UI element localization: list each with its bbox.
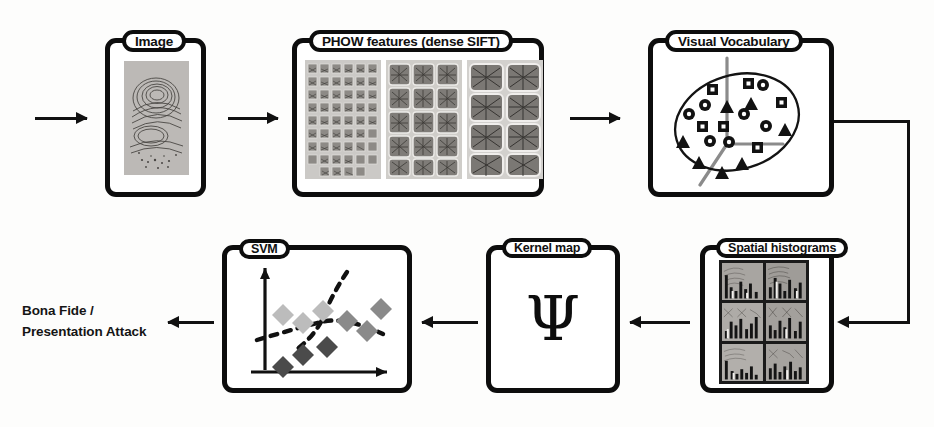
node-vocabulary[interactable]: Visual Vocabulary <box>648 38 834 197</box>
histogram-cell <box>722 263 763 300</box>
output-label: Bona Fide / Presentation Attack <box>22 300 172 342</box>
histogram-cell <box>766 344 807 381</box>
arrow-head-right-icon <box>76 112 88 124</box>
output-line-1: Bona Fide / <box>22 300 172 321</box>
svm-scatter-plot <box>235 258 407 388</box>
histogram-cell <box>722 303 763 340</box>
node-svm-label: SVM <box>239 239 290 259</box>
arrow-head-right-icon <box>609 112 621 124</box>
node-image[interactable]: Image <box>105 38 206 197</box>
clustered-feature-space <box>659 52 823 187</box>
node-histograms[interactable]: Spatial histograms <box>700 245 834 393</box>
connector-bottom-segment <box>848 321 909 324</box>
node-phow[interactable]: PHOW features (dense SIFT) <box>292 38 544 197</box>
histogram-cell <box>722 344 763 381</box>
phow-panel-medium <box>386 60 462 179</box>
node-kernelmap-label: Kernel map <box>502 238 592 258</box>
output-line-2: Presentation Attack <box>22 321 172 342</box>
node-phow-label: PHOW features (dense SIFT) <box>309 30 513 52</box>
arrow-head-right-icon <box>267 112 279 124</box>
arrow-head-left-icon <box>629 316 641 328</box>
node-image-label: Image <box>122 30 186 52</box>
node-kernelmap[interactable]: Ψ Kernel map <box>486 245 620 393</box>
edge-vocabulary-to-histograms <box>834 120 912 327</box>
histogram-cell <box>766 263 807 300</box>
node-histograms-label: Spatial histograms <box>716 238 848 258</box>
connector-right-segment <box>907 120 910 324</box>
node-vocabulary-label: Visual Vocabulary <box>665 30 803 52</box>
arrow-head-left-icon <box>837 316 849 328</box>
spatial-histogram-grid <box>719 260 809 384</box>
node-svm[interactable]: SVM <box>222 245 412 393</box>
diagram-canvas: Image <box>0 0 934 427</box>
histogram-cell <box>766 303 807 340</box>
psi-symbol: Ψ <box>491 250 615 388</box>
dense-sift-panels <box>305 60 543 179</box>
phow-panel-coarse <box>467 60 543 179</box>
fingerprint-image <box>124 61 189 175</box>
arrow-head-left-icon <box>421 316 433 328</box>
phow-panel-fine <box>305 60 381 179</box>
connector-top-segment <box>834 120 910 123</box>
